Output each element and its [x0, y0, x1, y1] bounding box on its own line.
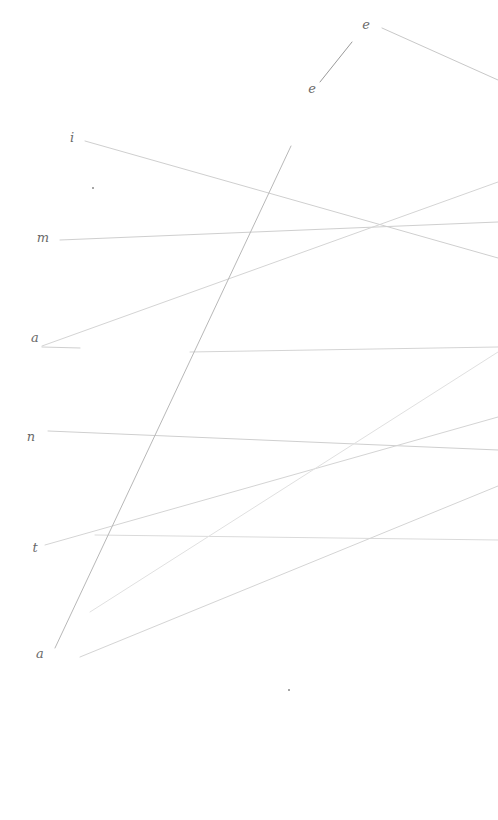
connection-line: [95, 535, 498, 540]
letter-label: t: [32, 541, 37, 554]
letter-label: a: [36, 647, 44, 660]
connection-line: [80, 486, 498, 657]
letter-label: e: [308, 82, 316, 95]
connection-line: [42, 182, 498, 346]
connection-line: [85, 141, 498, 258]
connection-line: [55, 146, 291, 648]
connection-line: [48, 431, 498, 450]
connection-lines: [0, 0, 498, 820]
letter-label: m: [37, 231, 49, 244]
connection-line: [60, 222, 498, 240]
connection-line: [320, 42, 352, 82]
sketch-canvas: eeimanta: [0, 0, 498, 820]
stray-mark: [92, 187, 94, 189]
letter-label: e: [362, 18, 370, 31]
connection-line: [190, 347, 498, 352]
letter-label: a: [31, 331, 39, 344]
letter-label: n: [27, 430, 35, 443]
connection-line: [42, 347, 80, 348]
stray-mark: [288, 689, 290, 691]
connection-line: [382, 28, 498, 80]
connection-line: [90, 352, 498, 612]
letter-label: i: [70, 131, 74, 144]
